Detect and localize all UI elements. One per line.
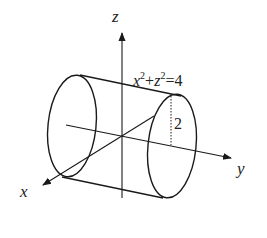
z-axis-label: z (112, 8, 119, 25)
diagram-canvas (0, 0, 267, 238)
y-axis-label: y (237, 160, 245, 177)
cylinder-equation: x2+z2=4 (133, 71, 182, 89)
eq-plus: + (145, 72, 154, 89)
cylinder-bottom-edge (62, 177, 163, 198)
cylinder-diagram: z y x x2+z2=4 2 (0, 0, 267, 238)
x-axis-label: x (20, 183, 28, 200)
radius-label: 2 (174, 116, 182, 132)
x-axis (43, 116, 154, 185)
eq-equals-value: =4 (165, 72, 182, 89)
